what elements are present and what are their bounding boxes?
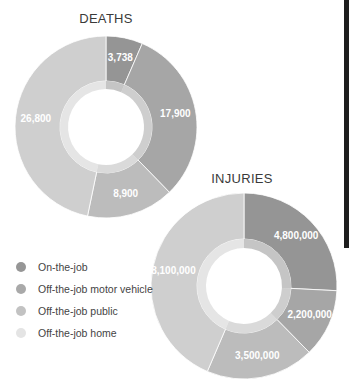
legend-label: On-the-job (38, 261, 88, 273)
legend-item-home: Off-the-job home (16, 322, 153, 344)
legend-item-on-the-job: On-the-job (16, 256, 153, 278)
legend-swatch-icon (16, 328, 26, 338)
legend-swatch-icon (16, 284, 26, 294)
slice-value-label: 4,800,000 (274, 230, 319, 241)
slice-value-label: 8,100,000 (151, 265, 196, 276)
slice-value-label: 2,200,000 (287, 309, 332, 320)
slice-value-label: 3,500,000 (235, 350, 280, 361)
legend-item-public: Off-the-job public (16, 300, 153, 322)
legend-item-motor-vehicle: Off-the-job motor vehicle (16, 278, 153, 300)
chart-legend: On-the-job Off-the-job motor vehicle Off… (16, 256, 153, 344)
legend-label: Off-the-job public (38, 305, 118, 317)
legend-swatch-icon (16, 306, 26, 316)
legend-label: Off-the-job home (38, 327, 117, 339)
legend-swatch-icon (16, 262, 26, 272)
legend-label: Off-the-job motor vehicle (38, 283, 153, 295)
